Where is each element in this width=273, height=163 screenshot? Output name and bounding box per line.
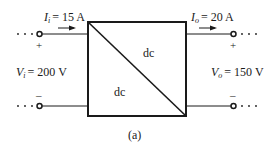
input-plus-terminal bbox=[37, 32, 42, 37]
dc-dc-converter-diagram: dc dc Ii= 15 A Io= 20 A + – + – Vi= bbox=[0, 0, 273, 163]
input-top-dots bbox=[17, 33, 33, 35]
output-minus-terminal bbox=[231, 104, 236, 109]
output-top-dots bbox=[241, 33, 257, 35]
output-minus-sign: – bbox=[229, 89, 236, 101]
output-current-arrow-icon bbox=[199, 26, 217, 31]
input-current-arrow-icon bbox=[58, 26, 76, 31]
output-voltage-label: Vo= 150 V bbox=[211, 65, 264, 80]
lower-dc-label: dc bbox=[114, 85, 125, 99]
input-minus-terminal bbox=[37, 104, 42, 109]
input-voltage-label: Vi= 200 V bbox=[16, 65, 67, 80]
upper-dc-label: dc bbox=[143, 46, 154, 60]
input-plus-sign: + bbox=[36, 39, 42, 51]
input-current-label: Ii= 15 A bbox=[43, 10, 85, 25]
converter-diagonal bbox=[88, 22, 186, 116]
input-bottom-dots bbox=[17, 105, 33, 107]
output-plus-terminal bbox=[231, 32, 236, 37]
input-minus-sign: – bbox=[35, 89, 42, 101]
output-bottom-dots bbox=[241, 105, 257, 107]
output-plus-sign: + bbox=[230, 39, 236, 51]
output-current-label: Io= 20 A bbox=[190, 10, 234, 25]
figure-caption: (a) bbox=[128, 128, 141, 142]
